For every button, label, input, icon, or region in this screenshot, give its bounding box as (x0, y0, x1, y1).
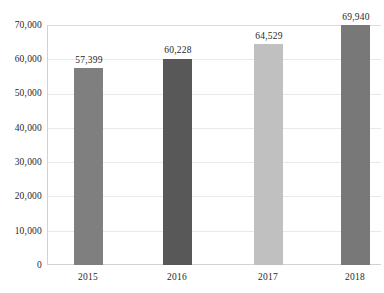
y-axis-tick-label: 70,000 (0, 20, 42, 30)
x-axis-tick-label-2016: 2016 (142, 272, 212, 283)
y-axis-tick-label: 50,000 (0, 88, 42, 98)
y-axis-tick-label: 20,000 (0, 191, 42, 201)
bar-2016[interactable] (163, 59, 192, 266)
bar-2017[interactable] (254, 44, 283, 265)
y-axis-tick-label: 30,000 (0, 157, 42, 167)
bar-2015[interactable] (74, 68, 103, 265)
bar-value-label-2017: 64,529 (234, 31, 304, 42)
bar-value-label-2016: 60,228 (143, 45, 213, 56)
bar-value-label-2018: 69,940 (321, 12, 384, 23)
bar-chart: 70,000 60,000 50,000 40,000 30,000 20,00… (0, 0, 384, 293)
bar-2018[interactable] (341, 25, 370, 265)
y-axis-tick-label: 0 (0, 260, 42, 270)
y-axis-line (47, 25, 48, 265)
x-axis-tick-label-2015: 2015 (53, 272, 123, 283)
x-axis-tick-label-2017: 2017 (233, 272, 303, 283)
x-axis-tick-label-2018: 2018 (320, 272, 384, 283)
gridline-70000 (47, 25, 381, 26)
y-axis-tick-label: 10,000 (0, 226, 42, 236)
y-axis-tick-label: 40,000 (0, 123, 42, 133)
bar-value-label-2015: 57,399 (54, 55, 124, 66)
y-axis-tick-label: 60,000 (0, 54, 42, 64)
